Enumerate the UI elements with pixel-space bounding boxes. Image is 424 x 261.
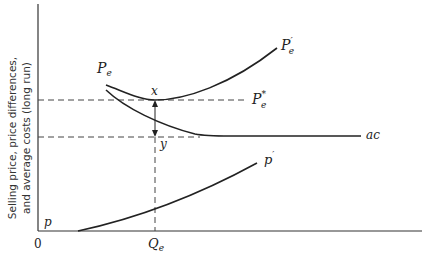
ac-label: ac — [366, 128, 380, 142]
p-label: p — [44, 215, 52, 229]
point-x-label: x — [151, 84, 158, 98]
pe-label: Pe — [96, 60, 112, 78]
point-y-label: y — [159, 137, 167, 151]
p-prime-curve — [78, 163, 257, 231]
arrow-up-head-icon — [152, 100, 158, 107]
ac-curve — [106, 90, 361, 136]
pe-star-label: P*e — [251, 89, 266, 110]
origin-label: 0 — [34, 237, 42, 251]
svg-text:and average costs (long run): and average costs (long run) — [20, 62, 32, 214]
pe-prime-label: P′e — [280, 35, 294, 56]
svg-text:Selling price, price differenc: Selling price, price differences, — [6, 57, 18, 219]
p-prime-label: p′ — [264, 150, 274, 167]
y-axis-label: Selling price, price differences, and av… — [6, 57, 32, 219]
qe-label: Qe — [148, 236, 164, 253]
diagram-canvas: Selling price, price differences, and av… — [0, 0, 424, 261]
arrow-down-head-icon — [152, 130, 158, 137]
